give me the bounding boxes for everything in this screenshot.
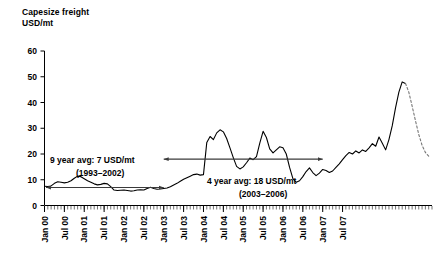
x-tick-label: Jan 04 <box>199 216 209 243</box>
x-tick-label: Jan 03 <box>159 216 169 243</box>
x-tick-label: Jul 02 <box>139 216 149 240</box>
x-tick-label: Jul 05 <box>258 216 268 240</box>
x-tick-label: Jan 05 <box>238 216 248 243</box>
chart-canvas: 0102030405060 Jan 00Jul 00Jan 01Jul 01Ja… <box>0 0 442 261</box>
x-tick-label: Jan 01 <box>79 216 89 243</box>
x-tick-label: Jan 02 <box>119 216 129 243</box>
x-tick-label: Jul 04 <box>219 216 229 240</box>
y-tick-label: 20 <box>28 149 38 159</box>
y-tick-label: 30 <box>28 123 38 133</box>
y-tick-label: 0 <box>32 201 37 211</box>
y-tick-label: 40 <box>28 98 38 108</box>
y-tick-label: 60 <box>28 46 38 56</box>
avg-4-year-label-line1: 4 year avg: 18 USD/mt <box>207 176 296 186</box>
x-tick-label: Jan 00 <box>40 216 50 243</box>
x-tick-label: Jul 03 <box>179 216 189 240</box>
y-axis-ticks: 0102030405060 <box>28 46 45 211</box>
capesize-freight-chart: Capesize freight USD/mt 0102030405060 Ja… <box>0 0 442 261</box>
x-tick-label: Jul 07 <box>338 216 348 240</box>
avg-9-year-label-line1: 9 year avg: 7 USD/mt <box>50 155 135 165</box>
y-tick-label: 50 <box>28 72 38 82</box>
x-tick-label: Jan 06 <box>278 216 288 243</box>
forecast-dashed-line <box>406 83 429 156</box>
x-tick-label: Jul 01 <box>99 216 109 240</box>
x-axis-ticks: Jan 00Jul 00Jan 01Jul 01Jan 02Jul 02Jan … <box>40 206 348 242</box>
x-tick-label: Jul 06 <box>298 216 308 240</box>
avg-4-year-label-line2: (2003–2006) <box>239 189 287 199</box>
avg-9-year-label-line2: (1993–2002) <box>76 168 124 178</box>
x-axis-minor-ticks <box>45 206 433 210</box>
x-tick-label: Jan 07 <box>318 216 328 243</box>
x-tick-label: Jul 00 <box>60 216 70 240</box>
y-tick-label: 10 <box>28 175 38 185</box>
annotation-avg-4-year: 4 year avg: 18 USD/mt (2003–2006) <box>164 159 323 199</box>
